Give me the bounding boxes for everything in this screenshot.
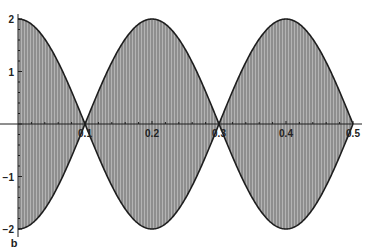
y-tick-label: −1	[3, 172, 15, 183]
y-tick-label: −2	[3, 224, 15, 235]
y-tick-label: 1	[8, 67, 14, 78]
panel-label: b	[11, 237, 18, 249]
envelope-chart: 0.10.20.30.40.521−1−2b	[0, 0, 365, 251]
x-tick-label: 0.2	[145, 128, 159, 139]
x-tick-label: 0.5	[346, 128, 360, 139]
plot-area: 0.10.20.30.40.521−1−2b	[0, 14, 362, 249]
x-tick-label: 0.4	[279, 128, 293, 139]
y-tick-label: 2	[8, 14, 14, 25]
x-tick-label: 0.1	[78, 128, 92, 139]
x-tick-label: 0.3	[212, 128, 226, 139]
